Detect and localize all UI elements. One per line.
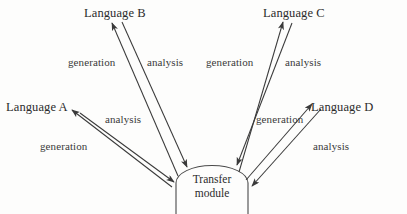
edge-label-generation-d: generation <box>256 113 303 125</box>
edge-label-analysis-c: analysis <box>285 56 321 68</box>
arrow-generation-c <box>239 22 283 172</box>
arrow-analysis-b <box>122 22 187 167</box>
edge-label-generation-a: generation <box>40 140 87 152</box>
node-label-language-b: Language B <box>84 6 146 21</box>
node-label-language-d: Language D <box>311 100 373 115</box>
edge-label-analysis-b: analysis <box>147 56 183 68</box>
transfer-module-label: Transfer module <box>180 173 244 200</box>
node-label-language-c: Language C <box>263 6 325 21</box>
diagram-canvas: Language A Language B Language C Languag… <box>0 0 407 214</box>
edge-label-generation-b: generation <box>68 56 115 68</box>
arrow-analysis-c <box>237 23 292 165</box>
transfer-module-label-line2: module <box>180 187 244 201</box>
arrow-generation-b <box>112 23 178 176</box>
node-label-language-a: Language A <box>6 100 68 115</box>
transfer-module-label-line1: Transfer <box>180 173 244 187</box>
edge-label-analysis-d: analysis <box>313 140 349 152</box>
edge-label-analysis-a: analysis <box>105 113 141 125</box>
edge-label-generation-c: generation <box>206 56 253 68</box>
